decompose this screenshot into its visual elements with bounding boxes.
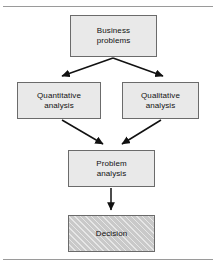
edge-business-to-quantitative [62,58,113,76]
node-business-problems-label: Business problems [95,26,133,46]
edge-quantitative-to-problem [62,120,103,144]
node-quantitative-analysis-label: Quantitative analysis [35,91,83,111]
node-qualitative-analysis-label: Qualitative analysis [139,91,182,111]
node-decision: Decision [68,215,155,252]
node-problem-analysis: Problem analysis [68,150,155,187]
node-problem-analysis-label: Problem analysis [94,159,129,179]
edge-qualitative-to-problem [122,120,161,144]
node-decision-label: Decision [94,229,129,239]
flowchart-figure: Business problems Quantitative analysis … [0,0,216,274]
node-qualitative-analysis: Qualitative analysis [122,82,199,119]
node-business-problems: Business problems [70,15,157,57]
edge-business-to-qualitative [113,58,163,76]
node-quantitative-analysis: Quantitative analysis [17,82,101,119]
